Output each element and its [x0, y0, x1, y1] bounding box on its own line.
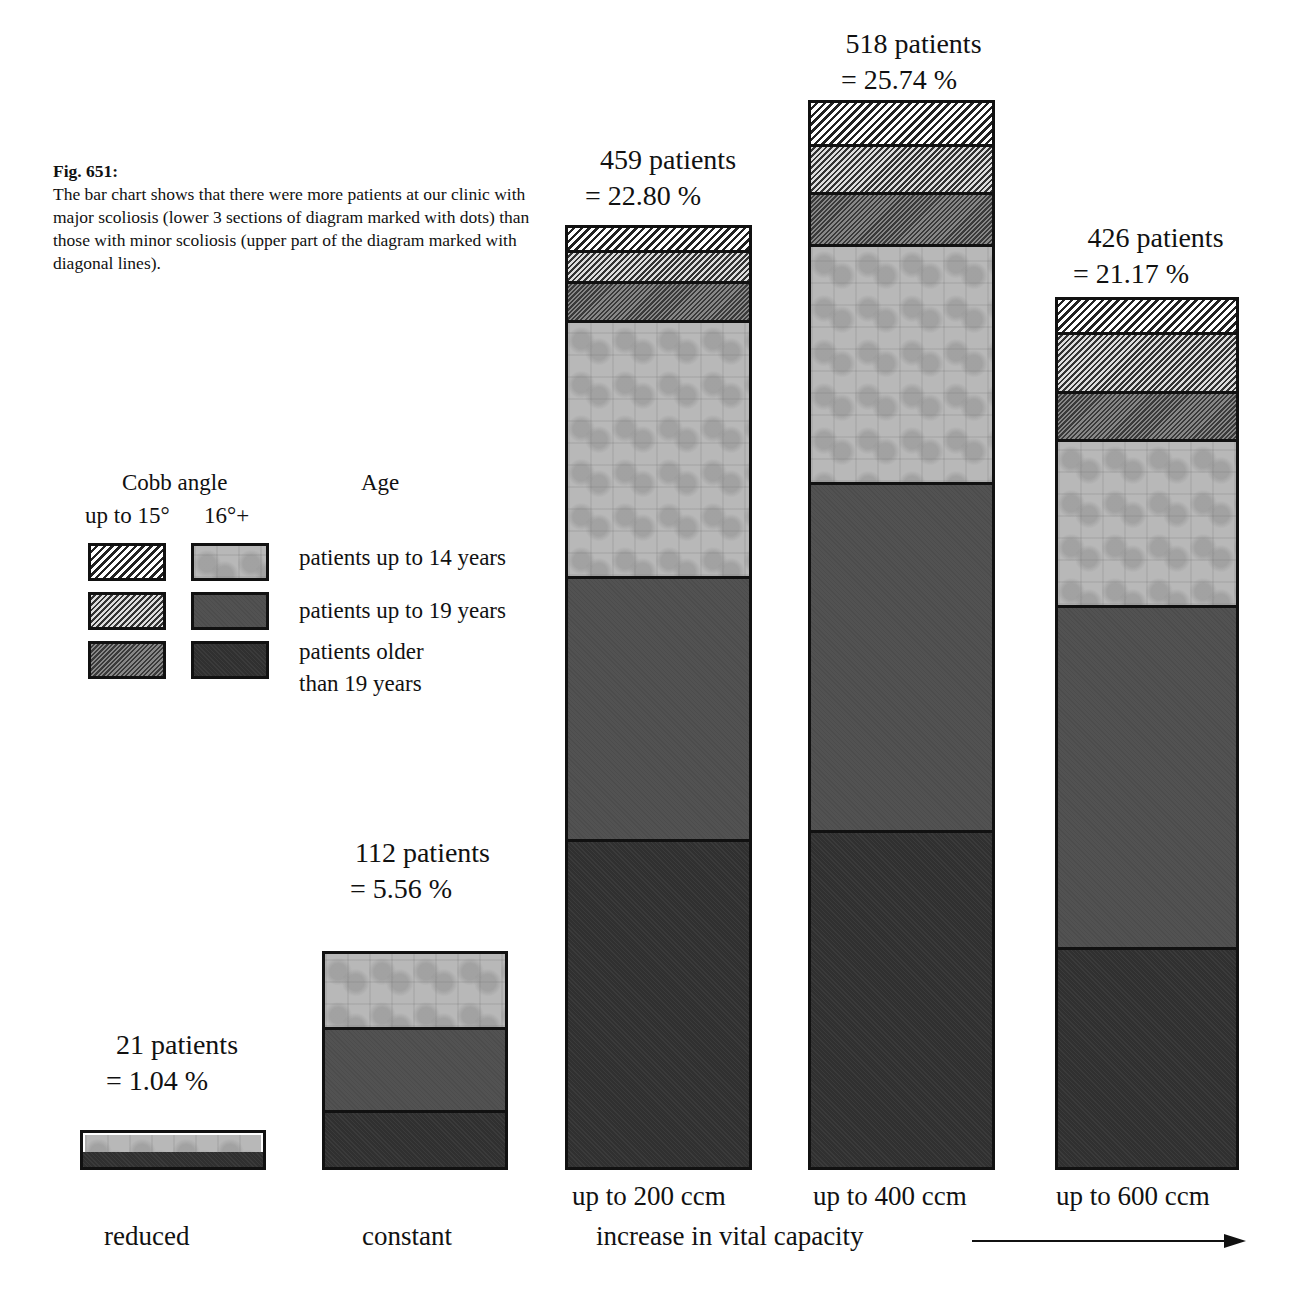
- xtick-200: up to 200 ccm: [572, 1181, 726, 1212]
- bar-reduced: [80, 1130, 266, 1170]
- segment-16plus-older: [325, 1110, 505, 1167]
- legend-label-19: patients up to 19 years: [299, 595, 506, 627]
- legend-swatch-hatch-light: [88, 543, 166, 581]
- bar-600-label: 426 patients = 21.17 %: [1068, 220, 1243, 292]
- legend-swatch-dots-dark: [191, 641, 269, 679]
- bar-200: [565, 225, 752, 1170]
- bar-pct: = 22.80 %: [583, 178, 753, 214]
- segment-16plus-14: [568, 320, 749, 576]
- segment-16plus-14: [325, 954, 505, 1027]
- segment-16plus-older: [1058, 947, 1236, 1167]
- segment-15-19: [811, 144, 992, 192]
- caption-text: The bar chart shows that there were more…: [53, 184, 529, 273]
- bar-400-label: 518 patients = 25.74 %: [826, 26, 1001, 98]
- bar-count: 459 patients: [583, 142, 753, 178]
- bar-constant: [322, 951, 508, 1170]
- legend-cobb-header: Cobb angle: [122, 470, 227, 496]
- xtick-600: up to 600 ccm: [1056, 1181, 1210, 1212]
- legend-swatch-dots-mid: [191, 592, 269, 630]
- segment-16plus-19: [568, 576, 749, 839]
- segment-16plus-older: [83, 1152, 263, 1167]
- legend-label-14: patients up to 14 years: [299, 542, 506, 574]
- bar-pct: = 5.56 %: [335, 871, 510, 907]
- legend-col2-header: 16°+: [204, 503, 249, 529]
- bar-pct: = 21.17 %: [1068, 256, 1243, 292]
- legend-col1-header: up to 15°: [85, 503, 170, 529]
- segment-15-19: [1058, 332, 1236, 391]
- segment-16plus-19: [325, 1027, 505, 1110]
- segment-16plus-older: [811, 830, 992, 1167]
- category-increase: increase in vital capacity: [596, 1221, 864, 1252]
- arrow-right-icon: [1224, 1234, 1246, 1248]
- segment-16plus-19: [811, 482, 992, 830]
- legend-swatch-dots-light: [191, 543, 269, 581]
- segment-15-older: [811, 192, 992, 244]
- legend-label-older-1: patients older: [299, 636, 424, 668]
- segment-15-14: [1058, 300, 1236, 332]
- figure-number: Fig. 651:: [53, 160, 543, 183]
- bar-pct: = 25.74 %: [826, 62, 1001, 98]
- segment-16plus-14: [811, 244, 992, 482]
- segment-15-14: [568, 228, 749, 250]
- segment-15-older: [1058, 391, 1236, 439]
- segment-15-14: [811, 103, 992, 144]
- bar-pct: = 1.04 %: [92, 1063, 262, 1099]
- bar-count: 112 patients: [335, 835, 510, 871]
- legend-swatch-hatch-mid: [88, 592, 166, 630]
- bar-count: 426 patients: [1068, 220, 1243, 256]
- segment-16plus-14: [1058, 439, 1236, 605]
- bar-400: [808, 100, 995, 1170]
- legend-age-header: Age: [361, 470, 399, 496]
- segment-16plus-19: [1058, 605, 1236, 947]
- category-reduced: reduced: [104, 1221, 189, 1252]
- segment-15-older: [568, 281, 749, 320]
- arrow-line: [972, 1240, 1227, 1242]
- category-constant: constant: [362, 1221, 452, 1252]
- segment-15-19: [568, 250, 749, 281]
- bar-constant-label: 112 patients = 5.56 %: [335, 835, 510, 907]
- bar-count: 21 patients: [92, 1027, 262, 1063]
- figure-caption: Fig. 651: The bar chart shows that there…: [53, 160, 543, 275]
- bar-reduced-label: 21 patients = 1.04 %: [92, 1027, 262, 1099]
- xtick-400: up to 400 ccm: [813, 1181, 967, 1212]
- legend-swatch-hatch-dark: [88, 641, 166, 679]
- bar-600: [1055, 297, 1239, 1170]
- segment-16plus-older: [568, 839, 749, 1167]
- legend-label-older-2: than 19 years: [299, 668, 422, 700]
- bar-count: 518 patients: [826, 26, 1001, 62]
- bar-200-label: 459 patients = 22.80 %: [583, 142, 753, 214]
